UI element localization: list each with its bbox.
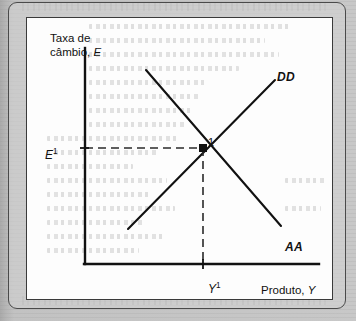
x-axis-title: Produto, Y <box>261 283 315 297</box>
scanned-page: Taxa de câmbio, E DD AA 1 E1 Y1 Produto,… <box>0 0 356 321</box>
dd-curve <box>128 80 275 229</box>
figure-outer-panel: Taxa de câmbio, E DD AA 1 E1 Y1 Produto,… <box>8 2 346 309</box>
x-axis-title-text: Produto, <box>261 284 304 296</box>
dd-aa-chart <box>27 18 333 300</box>
y-axis-title-symbol: E <box>93 46 101 58</box>
x-axis-title-symbol: Y <box>308 284 316 296</box>
equilibrium-point-label: 1 <box>208 136 214 149</box>
x-tick-symbol: Y <box>208 282 216 296</box>
x-axis-tick-label: Y1 <box>208 281 221 297</box>
y-axis-title: Taxa de câmbio, E <box>50 31 101 59</box>
y-axis-title-line1: Taxa de <box>50 32 90 44</box>
x-tick-superscript: 1 <box>216 281 221 290</box>
y-axis-tick-label: E1 <box>45 147 58 163</box>
equilibrium-point-marker <box>199 144 207 152</box>
figure-frame: Taxa de câmbio, E DD AA 1 E1 Y1 Produto,… <box>26 17 333 300</box>
y-axis-title-line2: câmbio, <box>50 46 90 58</box>
dd-curve-label: DD <box>277 70 295 85</box>
y-tick-symbol: E <box>45 148 53 162</box>
y-tick-superscript: 1 <box>53 147 58 156</box>
aa-curve-label: AA <box>285 240 303 255</box>
